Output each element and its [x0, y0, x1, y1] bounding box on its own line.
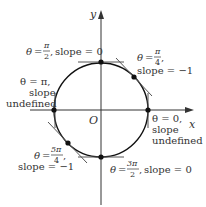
x-axis-arrow-icon	[185, 107, 194, 113]
svg-text:θ: θ	[137, 52, 143, 63]
svg-text:=: =	[118, 164, 126, 175]
point-pi-over-4	[131, 74, 136, 79]
svg-text:slope: slope	[29, 87, 56, 98]
svg-text:=: =	[145, 52, 153, 63]
svg-text:=: =	[34, 46, 42, 57]
point-5pi-over-4	[65, 140, 70, 145]
polar-circle-diagram: x y O θ = π 2 , slope = 0 θ = π 4 ,	[0, 0, 206, 207]
origin-label: O	[89, 114, 98, 127]
svg-text:θ: θ	[110, 164, 116, 175]
svg-text:3π: 3π	[127, 159, 138, 168]
svg-text:θ: θ	[26, 46, 32, 57]
y-axis-arrow-icon	[98, 10, 104, 19]
label-pi: θ = π, slope undefined	[6, 76, 57, 109]
svg-text:slope = 0: slope = 0	[55, 46, 103, 57]
svg-text:slope = 0: slope = 0	[144, 164, 192, 175]
svg-text:undefined: undefined	[152, 135, 203, 146]
svg-text:π: π	[43, 41, 50, 50]
svg-text:,: ,	[161, 52, 164, 63]
point-pi-over-2	[98, 59, 103, 64]
svg-text:2: 2	[44, 52, 49, 61]
svg-text:π: π	[154, 47, 161, 56]
y-axis-label: y	[89, 8, 97, 21]
label-0: θ = 0, slope undefined	[152, 113, 203, 146]
svg-text:2: 2	[130, 170, 135, 179]
svg-text:θ = 0,: θ = 0,	[152, 113, 182, 124]
point-0	[145, 107, 150, 112]
label-pi-over-4: θ = π 4 , slope = −1	[137, 47, 193, 76]
svg-text:slope: slope	[152, 124, 179, 135]
svg-text:,: ,	[63, 150, 66, 161]
svg-text:θ: θ	[34, 150, 40, 161]
svg-text:=: =	[42, 150, 50, 161]
svg-text:5π: 5π	[51, 145, 62, 154]
svg-text:,: ,	[139, 164, 142, 175]
label-pi-over-2: θ = π 2 , slope = 0	[26, 41, 103, 61]
point-3pi-over-2	[98, 154, 103, 159]
y-axis	[98, 10, 104, 205]
x-axis-label: x	[189, 118, 196, 131]
svg-text:slope = −1: slope = −1	[137, 65, 193, 76]
svg-text:undefined: undefined	[6, 98, 57, 109]
label-5pi-over-4: θ = 5π 4 , slope = −1	[18, 145, 74, 172]
label-3pi-over-2: θ = 3π 2 , slope = 0	[110, 159, 192, 179]
svg-text:θ = π,: θ = π,	[20, 76, 51, 87]
diagram-svg: x y O θ = π 2 , slope = 0 θ = π 4 ,	[0, 0, 206, 207]
svg-text:,: ,	[50, 46, 53, 57]
svg-text:slope = −1: slope = −1	[18, 161, 74, 172]
